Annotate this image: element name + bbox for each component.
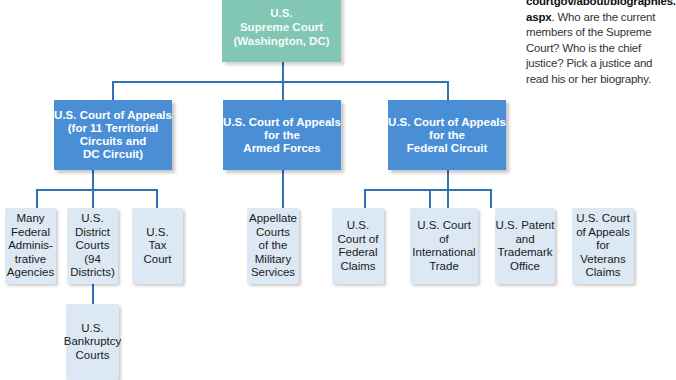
biographies-link-line2[interactable]: aspx [526,11,551,23]
connector-federal-claims [364,189,366,208]
connector-right-horizontal [364,189,492,191]
federal-claims-box: U.S. Court of Federal Claims [332,208,384,284]
connector-root-down [282,62,284,83]
connector-agencies [36,189,38,208]
connector-veterans [490,189,492,208]
appeals-territorial-box: U.S. Court of Appeals (for 11 Territoria… [54,100,172,170]
military-appellate-box: Appellate Courts of the Military Service… [247,208,299,284]
connector-armed-forces-down [282,170,284,208]
patent-office-box: U.S. Patent and Trademark Office [495,208,555,284]
connector-appeals-horizontal [112,81,449,83]
district-courts-box: U.S. District Courts (94 Districts) [67,208,118,284]
sidebar-note: courtgov/about/biographies. aspx. Who ar… [526,0,656,87]
connector-appeals-center [282,81,284,101]
connector-appeals-right [447,81,449,101]
biographies-link-line1[interactable]: courtgov/about/biographies. [526,0,676,7]
appeals-armed-forces-box: U.S. Court of Appeals for the Armed Forc… [223,100,341,170]
veterans-claims-box: U.S. Court of Appeals for Veterans Claim… [572,208,634,284]
connector-bankruptcy [92,283,94,306]
bankruptcy-courts-box: U.S. Bankruptcy Courts [66,304,119,380]
federal-agencies-box: Many Federal Adminis- trative Agencies [5,208,56,284]
international-trade-box: U.S. Court of International Trade [410,208,478,284]
connector-patent [429,189,431,208]
connector-left-horizontal [36,189,158,191]
connector-left-down [92,170,94,191]
connector-district [92,189,94,208]
appeals-federal-circuit-box: U.S. Court of Appeals for the Federal Ci… [388,100,506,170]
supreme-court-box: U.S. Supreme Court (Washington, DC) [222,0,341,62]
connector-tax [156,189,158,208]
connector-appeals-left [112,81,114,101]
tax-court-box: U.S. Tax Court [132,208,183,284]
